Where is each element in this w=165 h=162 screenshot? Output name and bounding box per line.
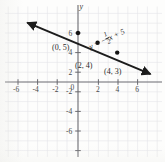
x-tick-label-neg6: -6 (13, 86, 19, 94)
point-label-4-3: (4, 3) (104, 68, 121, 76)
x-tick-label-4: 4 (116, 86, 120, 94)
point-marker (115, 50, 119, 54)
x-tick-label-6: 6 (135, 86, 139, 94)
x-tick-label-2: 2 (96, 86, 100, 94)
x-tick-label-neg2: -2 (52, 86, 58, 94)
y-tick-label-2: 2 (69, 69, 73, 77)
point-label-2-4: (2, 4) (75, 62, 92, 70)
point-label-0-5: (0, 5) (52, 44, 69, 52)
y-tick-label-neg6: -6 (66, 128, 72, 136)
coordinate-graph-figure: y 0 -6 -4 -2 2 4 6 6 4 2 -2 -4 -6 (0, 5)… (0, 0, 165, 162)
y-tick-label-neg2: -2 (66, 88, 72, 96)
x-tick-label-neg4: -4 (33, 86, 39, 94)
point-marker (76, 31, 80, 35)
y-tick-label-neg4: -4 (66, 108, 72, 116)
y-axis-label: y (80, 3, 84, 11)
y-tick-label-6: 6 (69, 30, 73, 38)
axis-lines (5, 5, 162, 157)
plot-canvas (0, 0, 165, 162)
